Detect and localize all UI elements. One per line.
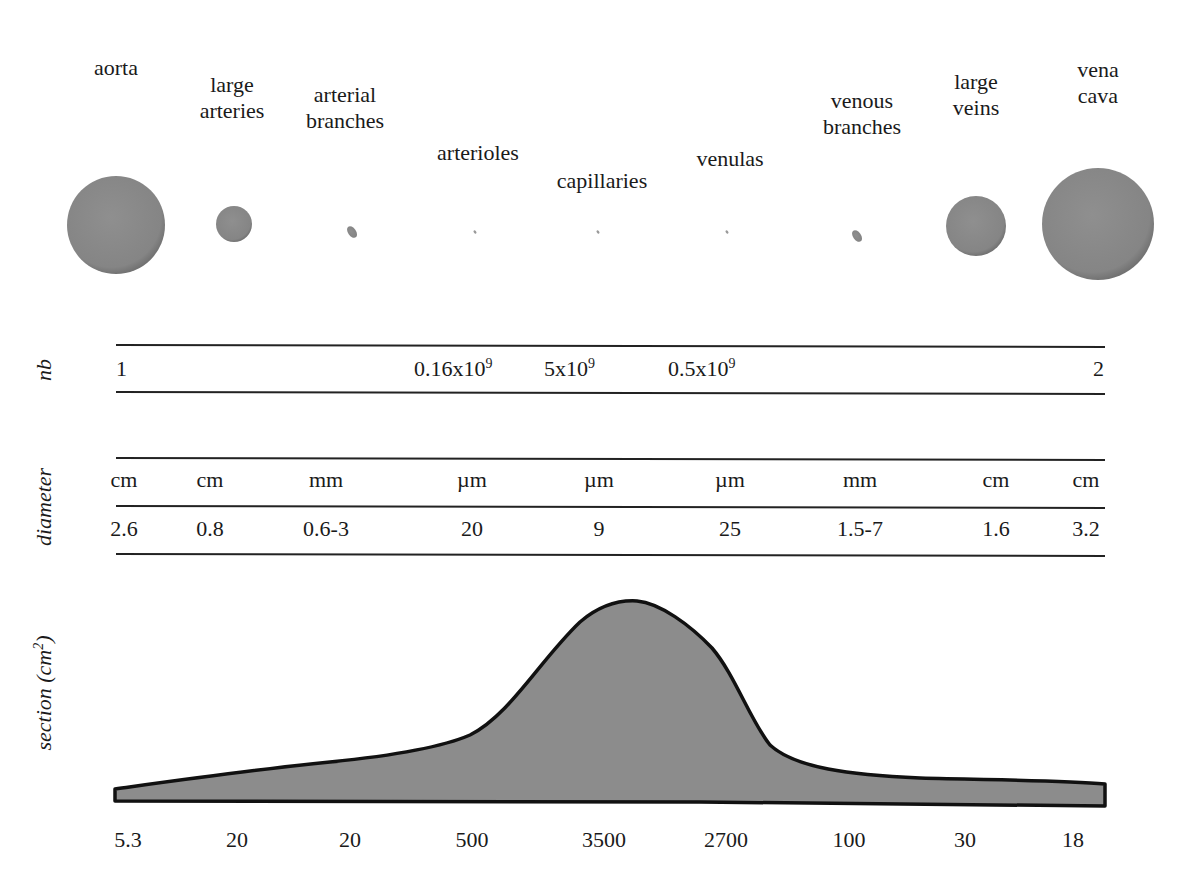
vessel-circle-capillaries bbox=[596, 230, 600, 235]
diameter-value-cell: 1.5-7 bbox=[837, 516, 883, 542]
nb-cell: 0.5x109 bbox=[668, 356, 736, 382]
diameter-value-cell: 25 bbox=[719, 516, 741, 542]
section-label-close: ) bbox=[31, 635, 56, 642]
vessel-circle-venulas bbox=[725, 230, 729, 235]
section-value-label: 2700 bbox=[704, 827, 748, 853]
diameter-top-rule bbox=[116, 458, 1105, 460]
diagram-canvas bbox=[0, 0, 1189, 891]
vessel-label-capillaries: capillaries bbox=[557, 168, 647, 194]
nb-cell: 2 bbox=[1093, 356, 1104, 382]
nb-cell: 5x109 bbox=[544, 356, 595, 382]
section-value-label: 18 bbox=[1062, 827, 1084, 853]
diameter-unit-cell: µm bbox=[584, 467, 614, 493]
nb-bottom-rule bbox=[116, 392, 1105, 394]
vessel-label-large-arteries: largearteries bbox=[200, 72, 265, 124]
diameter-unit-cell: cm bbox=[1073, 467, 1100, 493]
vessel-label-large-veins: largeveins bbox=[953, 69, 999, 121]
vessel-label-venous-branches: venousbranches bbox=[823, 88, 901, 140]
section-value-label: 500 bbox=[456, 827, 489, 853]
diameter-unit-cell: cm bbox=[983, 467, 1010, 493]
diameter-unit-cell: µm bbox=[457, 467, 487, 493]
diameter-unit-cell: cm bbox=[111, 467, 138, 493]
diameter-value-cell: 20 bbox=[461, 516, 483, 542]
diameter-value-cell: 0.8 bbox=[196, 516, 224, 542]
diameter-value-cell: 1.6 bbox=[982, 516, 1010, 542]
diameter-unit-cell: cm bbox=[197, 467, 224, 493]
diameter-value-cell: 3.2 bbox=[1072, 516, 1100, 542]
diameter-bottom-rule bbox=[116, 554, 1105, 556]
row-label-diameter: diameter bbox=[31, 468, 57, 546]
table-rules bbox=[116, 345, 1105, 556]
section-value-label: 20 bbox=[226, 827, 248, 853]
section-value-label: 30 bbox=[954, 827, 976, 853]
vessel-circle-arterioles bbox=[473, 230, 477, 235]
vessel-label-venulas: venulas bbox=[696, 146, 763, 172]
section-area-curve bbox=[115, 601, 1105, 806]
nb-top-rule bbox=[116, 345, 1105, 347]
section-label-sup: 2 bbox=[31, 643, 46, 650]
vessel-label-arterial-branches: arterialbranches bbox=[306, 82, 384, 134]
vessel-label-vena-cava: venacava bbox=[1077, 57, 1119, 109]
diameter-unit-cell: mm bbox=[309, 467, 343, 493]
diameter-value-cell: 9 bbox=[594, 516, 605, 542]
row-label-section: section (cm2) bbox=[31, 635, 57, 750]
section-label-text: section (cm bbox=[31, 650, 56, 751]
vessel-circle-large-veins bbox=[946, 196, 1006, 256]
vessel-circle-aorta bbox=[67, 176, 165, 274]
vessel-circle-vena-cava bbox=[1042, 168, 1154, 280]
nb-cell: 1 bbox=[116, 356, 127, 382]
vessel-label-aorta: aorta bbox=[94, 55, 138, 81]
diameter-mid-rule bbox=[116, 506, 1105, 508]
row-label-nb: nb bbox=[31, 359, 57, 381]
section-value-label: 20 bbox=[339, 827, 361, 853]
diameter-value-cell: 0.6-3 bbox=[303, 516, 349, 542]
section-value-label: 100 bbox=[833, 827, 866, 853]
vessel-circle-venous-branches bbox=[850, 228, 864, 243]
nb-cell: 0.16x109 bbox=[414, 356, 493, 382]
vessel-circle-arterial-branches bbox=[345, 224, 359, 239]
section-value-label: 5.3 bbox=[114, 827, 142, 853]
vessel-circle-large-arteries bbox=[216, 206, 252, 242]
diameter-unit-cell: mm bbox=[843, 467, 877, 493]
diameter-unit-cell: µm bbox=[715, 467, 745, 493]
vessel-label-arterioles: arterioles bbox=[437, 140, 519, 166]
section-value-label: 3500 bbox=[582, 827, 626, 853]
diameter-value-cell: 2.6 bbox=[110, 516, 138, 542]
